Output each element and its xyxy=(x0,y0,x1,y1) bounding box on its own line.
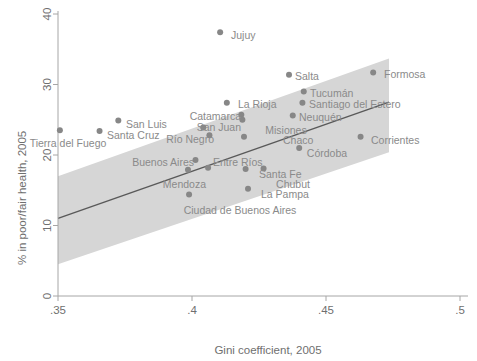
x-tick-label: .35 xyxy=(50,304,66,316)
point-label: Neuquén xyxy=(299,111,342,123)
point-label: La Pampa xyxy=(261,188,309,200)
data-point xyxy=(301,89,307,95)
point-label: San Luis xyxy=(126,118,167,130)
x-tick-label: .5 xyxy=(455,304,465,316)
data-point xyxy=(224,100,230,106)
data-point xyxy=(299,100,305,106)
point-label: Buenos Aires xyxy=(132,156,194,168)
point-label: Santiago del Estero xyxy=(309,98,401,110)
x-tick-label: .4 xyxy=(187,304,197,316)
y-tick-label: 20 xyxy=(41,149,53,162)
data-point xyxy=(217,29,223,35)
x-tick-label: .45 xyxy=(318,304,334,316)
data-point xyxy=(358,134,364,140)
data-point xyxy=(186,191,192,197)
point-label: San Juan xyxy=(197,121,242,133)
x-tick-labels: .35.4.45.5 xyxy=(50,304,465,316)
y-tick-labels: 010203040 xyxy=(41,8,53,300)
point-label: La Rioja xyxy=(238,98,277,110)
point-label: Mendoza xyxy=(163,178,206,190)
point-label: Tierra del Fuego xyxy=(30,137,107,149)
point-label: Corrientes xyxy=(371,134,419,146)
x-axis-title: Gini coefficient, 2005 xyxy=(214,344,321,356)
data-point xyxy=(370,70,376,76)
scatter-plot-figure: % in poor/fair health, 2005 Tierra del F… xyxy=(0,0,477,361)
point-label: Salta xyxy=(295,70,319,82)
data-point xyxy=(245,186,251,192)
plot-canvas: Tierra del FuegoSanta CruzSan LuisJujuyL… xyxy=(0,0,477,361)
data-point xyxy=(97,128,103,134)
y-tick-label: 0 xyxy=(41,293,53,299)
point-label: Chaco xyxy=(283,134,314,146)
y-tick-label: 40 xyxy=(41,8,53,21)
data-point xyxy=(286,72,292,78)
point-label: Santa Cruz xyxy=(107,129,160,141)
point-label: Córdoba xyxy=(307,147,347,159)
y-tick-label: 30 xyxy=(41,78,53,91)
point-label: Jujuy xyxy=(231,29,256,41)
data-point xyxy=(290,113,296,119)
point-label: Formosa xyxy=(384,68,426,80)
point-label: Ciudad de Buenos Aires xyxy=(184,204,297,216)
y-tick-label: 10 xyxy=(41,219,53,232)
data-point xyxy=(115,117,121,123)
data-point xyxy=(57,127,63,133)
data-point xyxy=(205,165,211,171)
point-label: Entre Ríos xyxy=(213,156,263,168)
data-point xyxy=(241,134,247,140)
point-label: Río Negro xyxy=(166,133,214,145)
